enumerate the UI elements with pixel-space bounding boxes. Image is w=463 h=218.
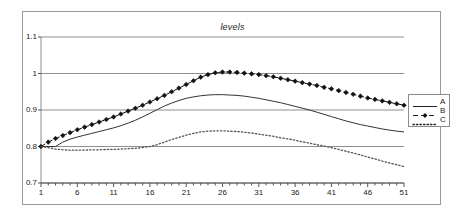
series-marker-B [322,85,327,90]
series-marker-B [307,82,312,87]
series-marker-B [169,89,174,94]
series-line-B [41,72,404,146]
series-marker-B [242,71,247,76]
legend-label-A: A [440,97,445,106]
y-tick-label: 0.9 [15,105,37,114]
series-marker-B [126,109,131,114]
series-marker-B [111,115,116,120]
series-marker-B [344,90,349,95]
x-tick-label: 16 [140,188,160,197]
chart-legend: ABC [408,94,450,127]
series-marker-B [278,76,283,81]
legend-swatch-A [412,97,438,106]
series-marker-B [177,86,182,91]
legend-item-C[interactable]: C [412,115,446,124]
series-marker-B [97,120,102,125]
y-tick-label: 0.7 [15,178,37,187]
series-marker-B [336,88,341,93]
y-tick-label: 1 [15,69,37,78]
series-marker-B [119,112,124,117]
x-tick-label: 51 [394,188,414,197]
x-tick-label: 1 [31,188,51,197]
y-tick-label: 0.8 [15,142,37,151]
series-marker-B [257,72,262,77]
series-marker-B [264,73,269,78]
series-marker-B [315,83,320,88]
series-marker-B [140,103,145,108]
y-tick-label: 1.1 [15,32,37,41]
series-marker-B [358,94,363,99]
series-marker-B [402,103,407,108]
x-tick-label: 11 [104,188,124,197]
series-marker-B [155,96,160,101]
series-marker-B [387,100,392,105]
series-marker-B [271,74,276,79]
series-marker-B [82,125,87,130]
legend-label-B: B [440,106,445,115]
x-tick-label: 26 [213,188,233,197]
series-marker-B [249,72,254,77]
series-marker-B [286,77,291,82]
x-tick-label: 41 [321,188,341,197]
series-marker-B [351,92,356,97]
series-marker-B [162,93,167,98]
series-marker-B [380,99,385,104]
series-marker-B [373,97,378,102]
series-marker-B [235,70,240,75]
series-marker-B [329,87,334,92]
series-marker-B [90,122,95,127]
series-marker-B [46,140,51,145]
chart-frame: levels 1.110.90.80.7 1611162126313641465… [22,11,441,205]
series-marker-B [75,127,80,132]
series-line-A [41,95,404,147]
series-marker-B [293,79,298,84]
legend-item-B[interactable]: B [412,106,446,115]
series-marker-B [198,75,203,80]
legend-label-C: C [440,115,446,124]
legend-swatch-B [412,106,438,115]
x-tick-label: 36 [285,188,305,197]
legend-swatch-C [412,115,438,124]
chart-plot-area [23,12,442,206]
series-marker-B [53,136,58,141]
x-tick-label: 46 [358,188,378,197]
series-marker-B [191,79,196,84]
series-marker-B [206,72,211,77]
legend-item-A[interactable]: A [412,97,446,106]
series-marker-B [148,100,153,105]
series-line-C [41,131,404,167]
series-marker-B [213,70,218,75]
series-marker-B [394,101,399,106]
series-marker-B [104,117,109,122]
x-tick-label: 21 [176,188,196,197]
x-tick-label: 31 [249,188,269,197]
series-marker-B [300,80,305,85]
series-marker-B [60,133,65,138]
series-marker-B [68,130,73,135]
series-marker-B [365,96,370,101]
x-tick-label: 6 [67,188,87,197]
series-marker-B [184,82,189,87]
